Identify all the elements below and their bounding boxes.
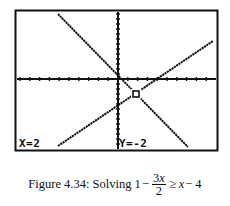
caption-prefix: Figure 4.34: Solving 1 [28,177,141,192]
cursor-x-label: X=2 [19,138,40,149]
cursor-y-label: Y=-2 [119,138,148,149]
calculator-graph-screen [0,0,230,160]
y-axis-ticks [116,14,120,144]
fraction-numerator: 3x [152,172,166,185]
caption-fraction: 3x 2 [152,172,166,197]
caption-rhs-rest: − 4 [185,177,201,192]
caption-minus: − [142,177,149,192]
figure: X=2 Y=-2 Figure 4.34: Solving 1 − 3x 2 ≥… [0,0,230,206]
figure-caption: Figure 4.34: Solving 1 − 3x 2 ≥ x − 4 [0,164,230,204]
numerator-variable: x [159,171,165,185]
caption-relation: ≥ [170,177,177,192]
caption-rhs-variable: x [179,177,185,192]
fraction-denominator: 2 [156,185,162,197]
